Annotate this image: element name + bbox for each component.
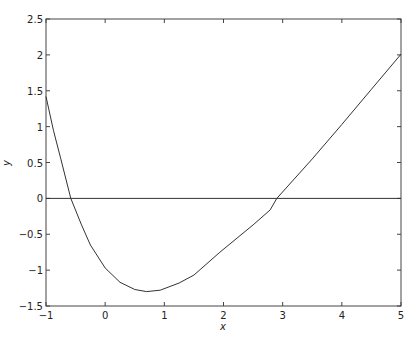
axes-box	[46, 19, 401, 306]
y-tick-label: −0.5	[19, 229, 43, 240]
y-tick-label: −1.5	[19, 301, 43, 312]
x-tick-label: 5	[398, 310, 404, 321]
x-tick-label: 2	[220, 310, 226, 321]
y-tick-label: 2.5	[27, 14, 43, 25]
y-tick-label: 2	[37, 50, 43, 61]
x-tick-label: 1	[161, 310, 167, 321]
axis-ticks: −10123452.521.510.50−0.5−1−1.5	[19, 14, 404, 321]
y-tick-label: 1.5	[27, 86, 43, 97]
y-axis-label: y	[1, 159, 12, 167]
y-tick-label: 1	[37, 122, 43, 133]
line-chart: −10123452.521.510.50−0.5−1−1.5 x y	[0, 0, 416, 345]
data-series	[46, 54, 401, 291]
x-axis-label: x	[219, 321, 226, 332]
x-tick-label: 3	[279, 310, 285, 321]
x-tick-label: 0	[102, 310, 108, 321]
x-tick-label: 4	[339, 310, 345, 321]
plot-frame	[46, 19, 401, 306]
curve-series	[46, 54, 401, 291]
y-tick-label: −1	[28, 265, 43, 276]
y-tick-label: 0	[37, 193, 43, 204]
y-tick-label: 0.5	[27, 158, 43, 169]
